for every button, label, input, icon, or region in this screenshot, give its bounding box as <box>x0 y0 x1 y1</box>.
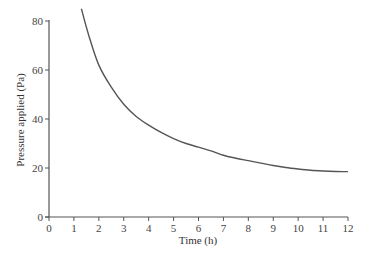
x-axis: 0123456789101112 <box>45 217 354 234</box>
x-tick-label: 8 <box>246 222 252 234</box>
x-tick-label: 4 <box>146 222 152 234</box>
x-tick-label: 10 <box>293 222 305 234</box>
y-tick-label: 80 <box>32 15 44 27</box>
y-axis-title: Pressure applied (Pa) <box>14 73 27 167</box>
x-tick-label: 9 <box>271 222 277 234</box>
x-tick-label: 11 <box>318 222 329 234</box>
x-tick-label: 0 <box>46 222 52 234</box>
y-tick-label: 40 <box>32 113 44 125</box>
y-axis: 020406080 <box>32 15 49 223</box>
line-chart: 020406080 0123456789101112 Time (h) Pres… <box>0 0 366 258</box>
plot-area <box>81 9 348 172</box>
y-tick-label: 0 <box>38 211 44 223</box>
y-tick-label: 60 <box>32 64 44 76</box>
x-tick-label: 5 <box>171 222 177 234</box>
x-tick-label: 2 <box>96 222 102 234</box>
x-tick-label: 7 <box>221 222 227 234</box>
y-tick-label: 20 <box>32 162 44 174</box>
pressure-curve <box>81 9 348 172</box>
x-axis-title: Time (h) <box>179 234 218 247</box>
x-tick-label: 12 <box>343 222 354 234</box>
x-tick-label: 6 <box>196 222 202 234</box>
x-tick-label: 1 <box>71 222 77 234</box>
x-tick-label: 3 <box>121 222 127 234</box>
